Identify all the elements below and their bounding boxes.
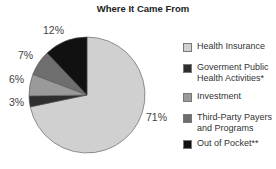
legend-swatch: [183, 140, 192, 149]
legend-swatch: [183, 64, 192, 73]
legend-swatch: [183, 114, 192, 123]
pie-slices: [29, 37, 145, 153]
slice-label-government: 3%: [9, 96, 24, 108]
legend-swatch: [183, 93, 192, 102]
legend-item-third-party: Third-Party Payersand Programs: [183, 112, 272, 134]
slice-label-health-insurance: 71%: [146, 111, 167, 123]
slice-label-investment: 6%: [9, 73, 24, 85]
slice-label-out-of-pocket: 12%: [43, 24, 64, 36]
legend-item-health-insurance: Health Insurance: [183, 41, 265, 52]
legend-label: Investment: [197, 91, 241, 102]
legend-label: Third-Party Payersand Programs: [197, 112, 272, 134]
legend-label: Goverment PublicHealth Activities*: [197, 62, 269, 84]
legend-label: Health Insurance: [197, 41, 265, 52]
legend-item-out-of-pocket: Out of Pocket**: [183, 138, 259, 149]
slice-label-third-party: 7%: [18, 49, 33, 61]
legend-label: Out of Pocket**: [197, 138, 259, 149]
legend-item-investment: Investment: [183, 91, 241, 102]
legend-swatch: [183, 43, 192, 52]
legend-item-government: Goverment PublicHealth Activities*: [183, 62, 269, 84]
